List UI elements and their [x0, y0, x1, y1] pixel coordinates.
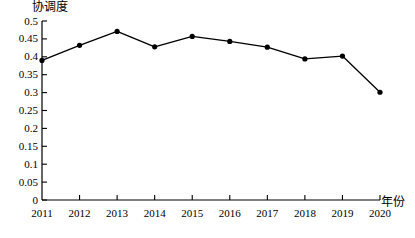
data-point	[190, 34, 195, 39]
data-point	[265, 45, 270, 50]
data-point	[152, 44, 157, 49]
data-point	[115, 29, 120, 34]
data-point	[302, 56, 307, 61]
data-point	[77, 43, 82, 48]
data-series-line	[42, 31, 380, 92]
plot-area	[0, 0, 415, 238]
y-axis-ticks	[42, 21, 47, 200]
data-point	[377, 90, 382, 95]
data-point	[39, 58, 44, 63]
line-chart: 协调度 00.050.10.150.20.250.30.350.40.450.5…	[0, 0, 415, 238]
axes	[42, 21, 380, 200]
data-point	[340, 53, 345, 58]
x-axis-ticks	[80, 195, 380, 200]
data-point	[227, 39, 232, 44]
